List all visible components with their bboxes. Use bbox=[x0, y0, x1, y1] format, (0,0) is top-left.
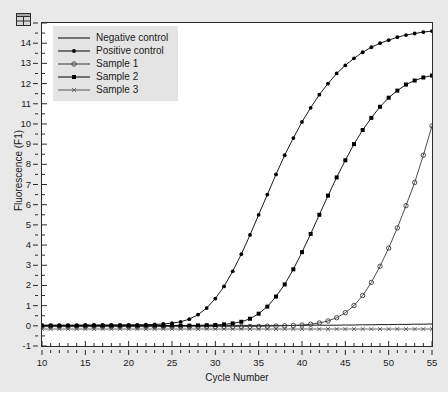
x-tick-label: 25 bbox=[157, 358, 187, 368]
x-tick-label: 55 bbox=[417, 358, 447, 368]
y-tick-label: 13 bbox=[7, 58, 31, 68]
y-tick-label: 14 bbox=[7, 38, 31, 48]
legend-label: Sample 3 bbox=[96, 84, 138, 95]
x-tick-label: 45 bbox=[330, 358, 360, 368]
legend-item: Negative control bbox=[57, 31, 168, 44]
y-tick-label: 2 bbox=[7, 280, 31, 290]
x-tick-label: 20 bbox=[114, 358, 144, 368]
legend-marker-square-icon bbox=[57, 71, 91, 83]
x-axis-title: Cycle Number bbox=[41, 372, 433, 383]
x-tick-label: 35 bbox=[244, 358, 274, 368]
x-tick-label: 30 bbox=[200, 358, 230, 368]
y-tick-label: -1 bbox=[7, 341, 31, 351]
y-tick-label: 3 bbox=[7, 260, 31, 270]
legend-label: Sample 1 bbox=[96, 58, 138, 69]
y-tick-label: 1 bbox=[7, 301, 31, 311]
x-tick-label: 10 bbox=[27, 358, 57, 368]
y-tick-label: 12 bbox=[7, 79, 31, 89]
chart-canvas: 10152025303540455055-1012345678910111213… bbox=[0, 0, 448, 392]
y-tick-label: 11 bbox=[7, 99, 31, 109]
x-tick-label: 50 bbox=[374, 358, 404, 368]
legend-item: Positive control bbox=[57, 44, 168, 57]
chart-screenshot: 10152025303540455055-1012345678910111213… bbox=[0, 0, 448, 410]
legend-marker-none-icon bbox=[57, 32, 91, 44]
x-tick-label: 15 bbox=[70, 358, 100, 368]
y-tick-label: 4 bbox=[7, 240, 31, 250]
y-axis-title: Fluorescence (F1) bbox=[13, 111, 24, 231]
legend-marker-x-icon bbox=[57, 84, 91, 96]
legend-item: Sample 1 bbox=[57, 57, 168, 70]
window-grid-icon[interactable] bbox=[16, 13, 31, 26]
y-tick-label: 0 bbox=[7, 321, 31, 331]
legend-label: Positive control bbox=[96, 45, 164, 56]
bottom-white-strip bbox=[0, 392, 448, 410]
chart-legend: Negative controlPositive controlSample 1… bbox=[53, 26, 178, 101]
legend-marker-dot-icon bbox=[57, 45, 91, 57]
legend-label: Negative control bbox=[96, 32, 168, 43]
x-tick-label: 40 bbox=[287, 358, 317, 368]
legend-marker-circle-icon bbox=[57, 58, 91, 70]
legend-item: Sample 2 bbox=[57, 70, 168, 83]
legend-label: Sample 2 bbox=[96, 71, 138, 82]
legend-item: Sample 3 bbox=[57, 83, 168, 96]
